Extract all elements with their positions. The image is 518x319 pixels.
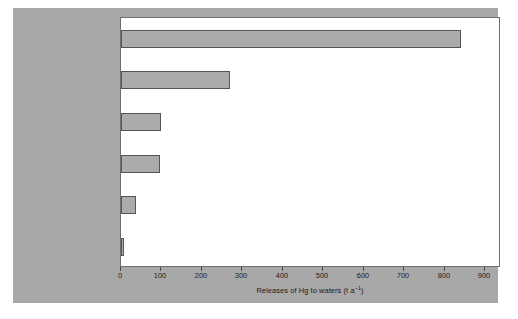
bar-artisanal-gold-mining[interactable] (121, 30, 461, 48)
plot-area (120, 17, 500, 267)
x-tick-label: 600 (343, 271, 383, 280)
bar-row (121, 226, 499, 268)
bar-deforestation[interactable] (121, 71, 230, 89)
bars-layer (121, 18, 499, 266)
bar-row (121, 143, 499, 185)
x-tick-label: 700 (383, 271, 423, 280)
x-axis-title: Releases of Hg to waters (t a−1) (120, 285, 500, 295)
x-tick-label: 500 (302, 271, 342, 280)
chart-figure: Artisanal gold mining Deforestation (soi… (0, 0, 518, 319)
bar-consumer-waste[interactable] (121, 155, 160, 173)
x-tick-label: 200 (181, 271, 221, 280)
x-tick-label: 800 (424, 271, 464, 280)
bar-row (121, 185, 499, 227)
x-tick-label: 300 (221, 271, 261, 280)
x-axis-line (120, 266, 500, 267)
bar-diffuse-pollution[interactable] (121, 196, 136, 214)
x-axis-title-tail: ) (361, 286, 364, 295)
x-tick-label: 400 (262, 271, 302, 280)
bar-chlor-alkali-industry[interactable] (121, 238, 124, 256)
x-tick-label: 900 (464, 271, 504, 280)
x-tick-label: 0 (100, 271, 140, 280)
bar-row (121, 60, 499, 102)
x-axis-title-text: Releases of Hg to waters (t a (256, 286, 354, 295)
x-tick-label: 100 (140, 271, 180, 280)
bar-row (121, 18, 499, 60)
chart-panel: Artisanal gold mining Deforestation (soi… (13, 8, 498, 303)
bar-row (121, 101, 499, 143)
bar-metal-processing[interactable] (121, 113, 161, 131)
